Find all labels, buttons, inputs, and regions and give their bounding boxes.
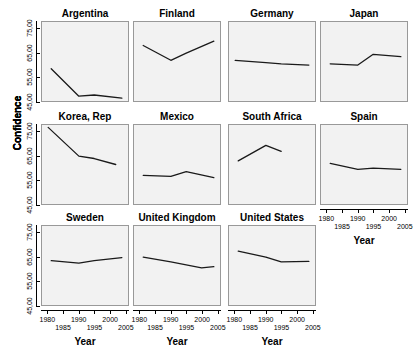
series-line bbox=[143, 41, 214, 60]
x-tick-mark bbox=[326, 209, 327, 213]
x-tick-mark bbox=[155, 310, 156, 314]
panel-plot-area bbox=[320, 21, 408, 102]
x-tick-label: 1995 bbox=[173, 323, 199, 332]
y-tick-mark bbox=[36, 53, 40, 54]
x-axis: 198019851990199520002005Year bbox=[133, 310, 221, 346]
trellis-chart: ArgentinaFinlandGermanyJapanKorea, RepMe… bbox=[0, 0, 420, 351]
y-tick-mark bbox=[36, 156, 40, 157]
panel-mexico: Mexico bbox=[133, 110, 221, 205]
x-tick-mark bbox=[110, 310, 111, 314]
x-axis: 198019851990199520002005Year bbox=[41, 310, 129, 346]
panel-south-africa: South Africa bbox=[228, 110, 316, 205]
x-tick-mark bbox=[47, 310, 48, 314]
y-tick-label: 75,00 bbox=[26, 221, 34, 243]
x-axis: 198019851990199520002005Year bbox=[320, 209, 408, 245]
x-axis: 198019851990199520002005Year bbox=[228, 310, 316, 346]
y-tick-label: 65,00 bbox=[26, 42, 34, 64]
y-tick-label: 55,00 bbox=[26, 169, 34, 191]
y-tick-label: 45,00 bbox=[26, 91, 34, 113]
y-axis: 45,0055,0065,0075,00 bbox=[0, 225, 41, 306]
series-line bbox=[143, 172, 214, 178]
y-tick-mark bbox=[36, 205, 40, 206]
y-tick-label: 65,00 bbox=[26, 145, 34, 167]
x-tick-label: 2005 bbox=[392, 222, 418, 231]
x-tick-label: 1995 bbox=[360, 222, 386, 231]
x-tick-mark bbox=[250, 310, 251, 314]
y-tick-label: 45,00 bbox=[26, 194, 34, 216]
x-tick-label: 2005 bbox=[300, 323, 326, 332]
series-line bbox=[51, 258, 122, 264]
x-tick-mark bbox=[94, 310, 95, 314]
panel-plot-area bbox=[133, 21, 221, 102]
y-axis-spine bbox=[36, 21, 37, 102]
panel-argentina: Argentina bbox=[41, 7, 129, 102]
x-tick-mark bbox=[373, 209, 374, 213]
x-axis-title: Year bbox=[41, 336, 129, 348]
panel-plot-area bbox=[228, 124, 316, 205]
x-tick-mark bbox=[342, 209, 343, 213]
panel-plot-area bbox=[41, 21, 129, 102]
panel-plot-area bbox=[133, 225, 221, 306]
y-tick-mark bbox=[36, 232, 40, 233]
x-tick-mark bbox=[218, 310, 219, 314]
x-tick-mark bbox=[266, 310, 267, 314]
y-tick-mark bbox=[36, 102, 40, 103]
panel-title: Sweden bbox=[41, 211, 129, 224]
y-tick-label: 55,00 bbox=[26, 270, 34, 292]
panel-title: South Africa bbox=[228, 110, 316, 123]
y-axis-spine bbox=[36, 225, 37, 306]
y-tick-label: 55,00 bbox=[26, 66, 34, 88]
x-tick-label: 1995 bbox=[268, 323, 294, 332]
y-tick-label: 65,00 bbox=[26, 246, 34, 268]
panel-title: Korea, Rep bbox=[41, 110, 129, 123]
x-tick-mark bbox=[297, 310, 298, 314]
x-tick-mark bbox=[405, 209, 406, 213]
x-tick-label: 1985 bbox=[237, 323, 263, 332]
x-axis-spine bbox=[133, 310, 221, 311]
panel-united-states: United States bbox=[228, 211, 316, 306]
panel-spain: Spain bbox=[320, 110, 408, 205]
x-tick-mark bbox=[389, 209, 390, 213]
panel-title: United Kingdom bbox=[133, 211, 221, 224]
panel-title: Germany bbox=[228, 7, 316, 20]
series-line bbox=[238, 251, 309, 262]
y-tick-mark bbox=[36, 306, 40, 307]
x-axis-title: Year bbox=[133, 336, 221, 348]
panel-germany: Germany bbox=[228, 7, 316, 102]
panel-title: Spain bbox=[320, 110, 408, 123]
panel-japan: Japan bbox=[320, 7, 408, 102]
x-axis-spine bbox=[228, 310, 316, 311]
x-tick-mark bbox=[171, 310, 172, 314]
panel-title: Japan bbox=[320, 7, 408, 20]
x-axis-title: Year bbox=[320, 235, 408, 247]
panel-title: Mexico bbox=[133, 110, 221, 123]
x-tick-mark bbox=[186, 310, 187, 314]
panel-united-kingdom: United Kingdom bbox=[133, 211, 221, 306]
panel-korea-rep: Korea, Rep bbox=[41, 110, 129, 205]
y-tick-mark bbox=[36, 180, 40, 181]
x-axis-spine bbox=[41, 310, 129, 311]
x-axis-title: Year bbox=[228, 336, 316, 348]
x-tick-mark bbox=[79, 310, 80, 314]
panel-plot-area bbox=[320, 124, 408, 205]
y-axis-title: Confidence bbox=[12, 82, 24, 164]
x-tick-mark bbox=[202, 310, 203, 314]
panel-title: Finland bbox=[133, 7, 221, 20]
series-line bbox=[238, 145, 281, 161]
panel-title: United States bbox=[228, 211, 316, 224]
panel-title: Argentina bbox=[41, 7, 129, 20]
x-tick-mark bbox=[126, 310, 127, 314]
y-tick-label: 75,00 bbox=[26, 17, 34, 39]
panel-plot-area bbox=[228, 225, 316, 306]
y-tick-label: 45,00 bbox=[26, 295, 34, 317]
panel-finland: Finland bbox=[133, 7, 221, 102]
panel-sweden: Sweden bbox=[41, 211, 129, 306]
x-axis-spine bbox=[320, 209, 408, 210]
y-tick-mark bbox=[36, 77, 40, 78]
panel-plot-area bbox=[228, 21, 316, 102]
series-line bbox=[51, 69, 122, 98]
x-tick-label: 1985 bbox=[50, 323, 76, 332]
series-line bbox=[48, 127, 116, 164]
x-tick-mark bbox=[63, 310, 64, 314]
x-tick-mark bbox=[313, 310, 314, 314]
